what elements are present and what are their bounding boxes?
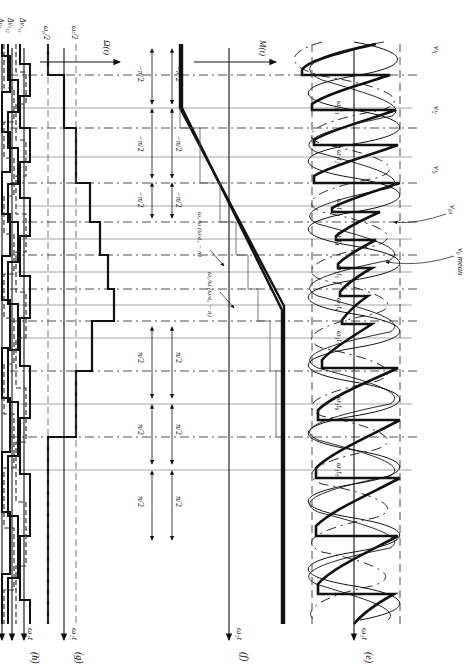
axis-label-e: ω₁t (360, 628, 370, 640)
panel-e-labels: vₗ₁ vₗ₂ vₗ₃ v₀ₐ v₀ mean (386, 46, 466, 275)
axis-name-labels: ω₁t ω₁t ω₁t ω₁t (26, 628, 370, 640)
label-dv-t11: Δvₜ₁₁ (18, 17, 27, 33)
panel-tags: (e) (f) (g) (h) (29, 652, 375, 664)
panel-e (294, 42, 400, 640)
tick-label-2: ω₁t₂ (335, 150, 344, 164)
tick-label-3: ω₁t₃ (335, 199, 344, 213)
axis-label-h: ω₁t (26, 628, 36, 640)
label-f-slope-neg-2: −π/2 (174, 136, 184, 152)
label-v0a: v₀ₐ (448, 205, 458, 215)
tick-label-6: ω₁t₆ (335, 298, 344, 312)
label-dv-t12: Δvₜ₁₂ (6, 17, 15, 33)
pulse-train-3 (2, 44, 10, 624)
label-f-pos-1: π/2 (136, 352, 146, 363)
panel-g (40, 44, 120, 640)
label-v0mean: v₀ mean (456, 248, 466, 275)
label-f-pos-3: π/2 (136, 496, 146, 507)
label-f-slope-neg-3: −π/2 (174, 192, 184, 208)
label-f-neg-2: −π/2 (136, 136, 146, 152)
label-f-slope-pos-1: π/2 (174, 352, 184, 363)
panel-h (2, 44, 30, 640)
tick-label-4: ω₁t₄ (335, 232, 344, 246)
label-Omega-t: Ω(t) (102, 40, 112, 55)
f-measure-arrows-pos (152, 330, 172, 540)
label-vl2: vₗ₂ (432, 106, 442, 114)
label-f-slope-neg-1: −π/2 (174, 66, 184, 82)
axis-label-f: ω₁t (235, 628, 245, 640)
modulation-trapezoid (182, 44, 282, 624)
label-f-neg-3: −π/2 (136, 192, 146, 208)
figure-page: vₗ₁ vₗ₂ vₗ₃ v₀ₐ v₀ mean (0, 0, 472, 664)
label-f-pos-2: π/2 (136, 424, 146, 435)
label-Mt: M(t) (258, 39, 268, 56)
tick-label-1: ω₁t₁ (335, 101, 344, 115)
panel-tag-g: (g) (73, 652, 85, 664)
panel-g-ref-levels (48, 44, 76, 624)
reference-step-waveform (302, 44, 400, 624)
annotation-f-2: ω₀/ω (ωₕt₆ − π) (206, 272, 214, 317)
label-dv-t13: Δvₜ₁₃ (0, 17, 5, 33)
modulation-trapezoid-main (180, 44, 284, 624)
label-omega-t-level: ωₜ/2 (70, 26, 79, 39)
label-f-slope-pos-3: π/2 (174, 496, 184, 507)
panel-h-text: Δvₜ₁₁ Δvₜ₁₂ Δvₜ₁₃ (0, 17, 27, 33)
label-omega-0-level: ω₀/2 (42, 26, 51, 40)
panel-tag-f: (f) (238, 652, 250, 662)
panel-g-text: Ω(t) ω₀/2 ωₜ/2 (42, 26, 112, 55)
tick-label-8: ω₁t₈ (335, 397, 344, 411)
axis-label-g: ω₁t (70, 628, 80, 640)
panel-tag-h: (h) (29, 652, 41, 664)
tick-label-9: ω₁t₉ (335, 463, 344, 477)
pulse-train-1 (20, 44, 30, 624)
tick-label-5: ω₁t₅ (335, 265, 344, 279)
annotation-f-1: ω₀/ω (ωₕt₄ − π) (196, 212, 204, 257)
label-f-neg-1: −π/2 (136, 66, 146, 82)
leader-v0a (394, 214, 446, 223)
label-vl3: vₗ₃ (432, 166, 442, 174)
panel-tag-e: (e) (363, 652, 375, 664)
label-f-slope-pos-2: π/2 (174, 424, 184, 435)
label-vl1: vₗ₁ (432, 46, 442, 54)
f-measure-arrows-neg (152, 52, 172, 218)
omega-staircase (48, 44, 114, 624)
sine-phase-2 (294, 42, 394, 620)
tick-label-7: ω₁t₇ (335, 331, 344, 345)
panel-f (152, 44, 284, 640)
figure-canvas: vₗ₁ vₗ₂ vₗ₃ v₀ₐ v₀ mean (0, 0, 472, 664)
figure-svg: vₗ₁ vₗ₂ vₗ₃ v₀ₐ v₀ mean (0, 0, 472, 664)
leader-v0mean (386, 256, 454, 264)
